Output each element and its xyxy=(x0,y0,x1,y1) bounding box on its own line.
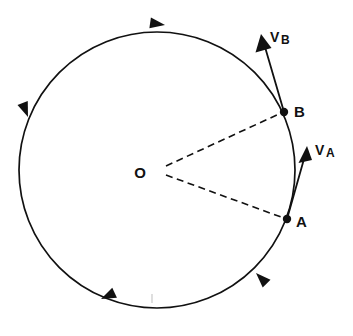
velocity-vector-a-subscript: A xyxy=(326,146,335,160)
point-b-marker xyxy=(280,108,288,116)
velocity-vector-b-subscript: B xyxy=(281,33,290,47)
radius-line-to-a xyxy=(166,175,281,217)
velocity-vector-b-symbol: V xyxy=(270,29,280,45)
velocity-vector-a-label: V A xyxy=(314,142,335,160)
trajectory-circle xyxy=(19,32,295,308)
velocity-vector-b-shaft xyxy=(265,47,284,112)
velocity-vector-b-label: V B xyxy=(269,29,290,47)
radius-line-to-b xyxy=(166,114,279,166)
velocity-vector-a-arrowhead-icon xyxy=(299,146,313,163)
point-b-label: B xyxy=(294,103,305,120)
velocity-vector-b xyxy=(256,34,285,112)
velocity-vector-a-symbol: V xyxy=(315,142,325,158)
physics-diagram-canvas: O B A V B V A xyxy=(0,0,353,336)
velocity-vector-a xyxy=(287,146,312,219)
direction-arrow-top-icon xyxy=(149,17,165,30)
direction-arrowheads-group xyxy=(17,17,270,304)
direction-arrow-bottom-right-icon xyxy=(252,269,270,287)
center-label: O xyxy=(134,164,146,181)
circular-motion-diagram: O B A V B V A xyxy=(0,0,353,336)
point-a-marker xyxy=(283,215,291,223)
point-a-label: A xyxy=(296,213,307,230)
